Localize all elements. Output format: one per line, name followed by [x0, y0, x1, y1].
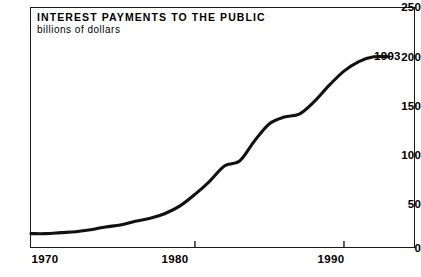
- chart-svg-layer: [0, 0, 421, 277]
- chart-container: 250 200 150 100 50 0 1970 1980 1990 INTE…: [0, 0, 421, 277]
- series-line-interest-payments: [31, 56, 389, 233]
- x-axis-tick-marks: [195, 241, 344, 248]
